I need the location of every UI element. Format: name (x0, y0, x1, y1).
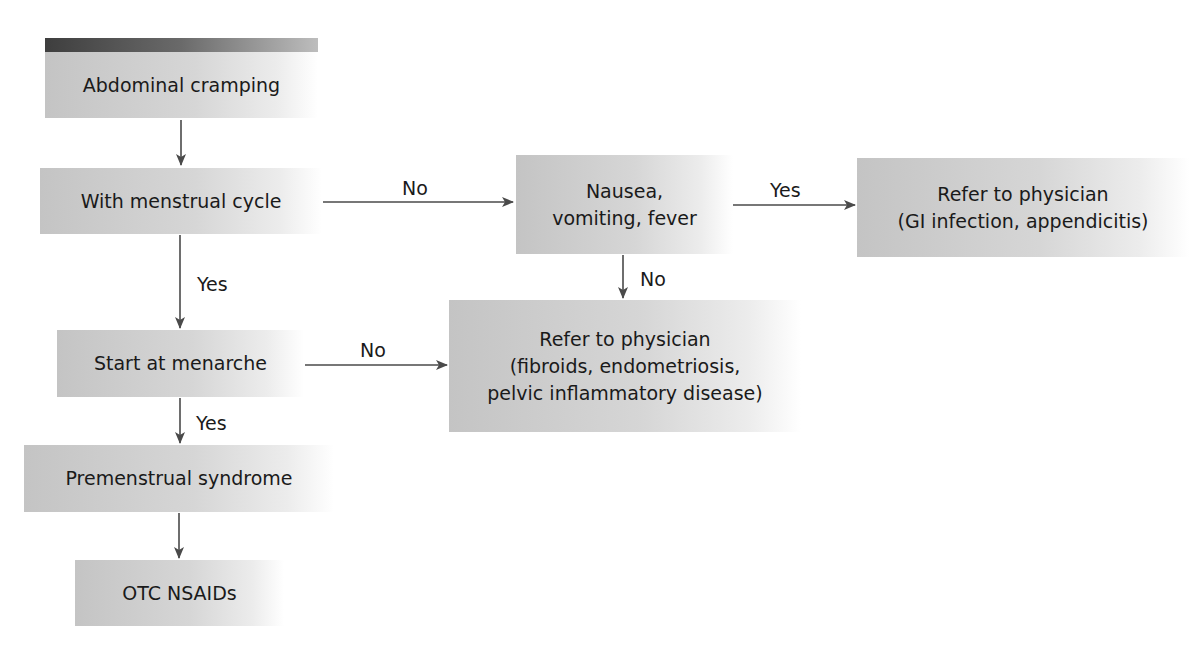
node-label-line1: Refer to physician (539, 326, 710, 353)
node-label: Start at menarche (94, 350, 267, 377)
node-label-line1: Refer to physician (937, 181, 1108, 208)
node-refer-physician-fibroids: Refer to physician (fibroids, endometrio… (449, 300, 801, 432)
node-start-at-menarche: Start at menarche (57, 330, 304, 397)
edge-label-nausea-to-refer-gi: Yes (770, 179, 801, 201)
node-premenstrual-syndrome: Premenstrual syndrome (24, 445, 334, 512)
header-bar (45, 38, 318, 52)
node-label-line2: (fibroids, endometriosis, (510, 353, 741, 380)
edge-label-menarche-to-pms: Yes (196, 412, 227, 434)
edge-label-menarche-to-refer-fibroids: No (360, 339, 386, 361)
node-label: Premenstrual syndrome (65, 465, 292, 492)
edge-label-nausea-to-refer-fibroids: No (640, 268, 666, 290)
node-refer-physician-gi: Refer to physician (GI infection, append… (857, 158, 1189, 257)
node-nausea-vomiting-fever: Nausea, vomiting, fever (516, 155, 733, 254)
node-otc-nsaids: OTC NSAIDs (75, 560, 284, 626)
node-label: Abdominal cramping (83, 72, 280, 99)
node-with-menstrual-cycle: With menstrual cycle (40, 168, 322, 234)
node-label-line1: Nausea, (586, 178, 663, 205)
edge-label-cycle-to-nausea: No (402, 177, 428, 199)
node-label: OTC NSAIDs (122, 580, 237, 607)
node-label-line3: pelvic inflammatory disease) (487, 380, 762, 407)
node-label-line2: vomiting, fever (552, 205, 697, 232)
node-abdominal-cramping: Abdominal cramping (45, 52, 318, 118)
edge-label-cycle-to-menarche: Yes (197, 273, 228, 295)
node-label-line2: (GI infection, appendicitis) (898, 208, 1149, 235)
node-label: With menstrual cycle (81, 188, 282, 215)
